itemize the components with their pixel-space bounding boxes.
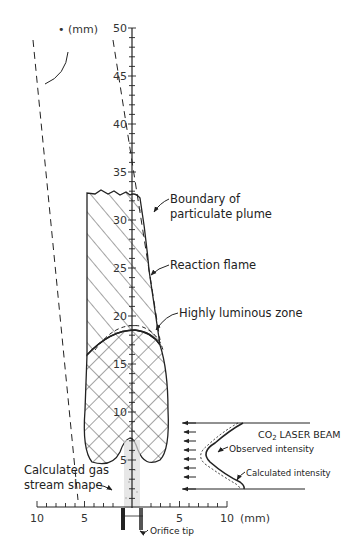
tick-50: 50 [113, 22, 127, 35]
flame-plume-diagram: • (mm) 50 45 40 35 30 25 20 15 10 5 10 5… [0, 0, 361, 558]
tick-45: 45 [113, 70, 127, 83]
tick-40: 40 [113, 118, 127, 131]
label-calculated-intensity: Calculated intensity [246, 468, 331, 478]
htick-left-5: 5 [81, 512, 88, 525]
tick-15: 15 [113, 358, 127, 371]
label-gas-stream-2: stream shape [24, 478, 103, 492]
arc-mark [45, 52, 68, 84]
tick-35: 35 [113, 166, 127, 179]
htick-right-10: 10 [220, 512, 234, 525]
htick-right-5: 5 [176, 512, 183, 525]
label-boundary-2: particulate plume [170, 207, 272, 221]
htick-left-10: 10 [30, 512, 44, 525]
label-boundary-1: Boundary of [170, 192, 241, 206]
label-luminous-zone: Highly luminous zone [179, 306, 303, 320]
label-orifice-tip: Orifice tip [150, 526, 194, 536]
tick-20: 20 [113, 310, 127, 323]
tick-25: 25 [113, 262, 127, 275]
orifice-tip [121, 508, 143, 530]
tick-10: 10 [113, 406, 127, 419]
label-laser-beam: CO2 LASER BEAM [258, 429, 341, 442]
label-observed-intensity: Observed intensity [229, 444, 315, 454]
tick-30: 30 [113, 214, 127, 227]
tick-5: 5 [120, 454, 127, 467]
axis-unit-label: • (mm) [58, 23, 98, 36]
observed-intensity-curve [206, 423, 244, 489]
horizontal-axis: 10 5 5 10 (mm) [30, 501, 270, 525]
label-gas-stream-1: Calculated gas [24, 463, 109, 477]
haxis-unit-label: (mm) [240, 512, 270, 525]
label-reaction-flame: Reaction flame [170, 258, 256, 272]
